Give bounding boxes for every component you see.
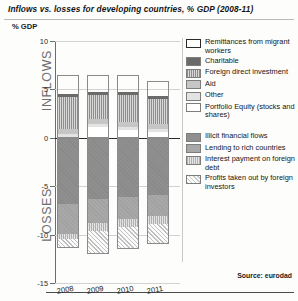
segment-aid-2010[interactable] <box>117 122 139 127</box>
segment-lending-2011[interactable] <box>147 195 169 216</box>
legend-label-profits: Profits taken out by foreign investors <box>205 174 296 191</box>
legend-divider <box>182 38 183 262</box>
legend-swatch-remittances <box>186 39 201 48</box>
y-tick-10 <box>50 41 55 42</box>
y-axis-tick-labels: 1050-5-10-15 <box>22 41 48 283</box>
y-tick-label--10: -10 <box>37 230 48 239</box>
segment-profits-2008[interactable] <box>57 239 79 248</box>
bar-group-2009[interactable] <box>87 41 109 283</box>
y-tick-label-0: 0 <box>44 133 48 142</box>
legend-swatch-charitable <box>186 57 201 66</box>
segment-interest-2011[interactable] <box>147 216 169 224</box>
legend-item-lending[interactable]: Lending to rich countries <box>186 144 296 154</box>
legend-swatch-profits <box>186 175 201 184</box>
legend-label-lending: Lending to rich countries <box>205 144 286 153</box>
legend-label-illicit: Illicit financial flows <box>205 132 267 141</box>
bar-group-2010[interactable] <box>117 41 139 283</box>
segment-portfolio-2010[interactable] <box>117 130 139 138</box>
segment-aid-2011[interactable] <box>147 124 169 129</box>
segment-profits-2011[interactable] <box>147 224 169 244</box>
source-note: Source: eurodad <box>237 272 292 279</box>
legend-item-remittances[interactable]: Remittances from migrant workers <box>186 38 296 55</box>
segment-fdi-2009[interactable] <box>87 95 109 119</box>
segment-aid-2009[interactable] <box>87 119 109 124</box>
segment-other-2011[interactable] <box>147 129 169 132</box>
segment-interest-2009[interactable] <box>87 223 109 231</box>
segment-remittances-2010[interactable] <box>117 75 139 92</box>
y-tick--5 <box>50 186 55 187</box>
legend-swatch-portfolio <box>186 103 201 112</box>
legend-label-fdi: Foreign direct investment <box>205 68 288 77</box>
legend-swatch-lending <box>186 144 201 153</box>
legend-swatch-other <box>186 92 201 101</box>
y-tick--10 <box>50 235 55 236</box>
legend-label-portfolio: Portfolio Equity (stocks and shares) <box>205 103 296 120</box>
legend-item-aid[interactable]: Aid <box>186 80 296 90</box>
segment-charitable-2010[interactable] <box>117 92 139 95</box>
chart-legend: Remittances from migrant workersCharitab… <box>186 38 296 193</box>
legend-item-portfolio[interactable]: Portfolio Equity (stocks and shares) <box>186 103 296 120</box>
x-axis-line <box>46 292 294 293</box>
segment-illicit-2009[interactable] <box>87 138 109 199</box>
legend-swatch-interest <box>186 156 201 165</box>
legend-label-other: Other <box>205 91 223 100</box>
segment-profits-2010[interactable] <box>117 227 139 249</box>
segment-lending-2010[interactable] <box>117 197 139 219</box>
y-tick-label-5: 5 <box>44 85 48 94</box>
segment-fdi-2010[interactable] <box>117 95 139 122</box>
chart-title: Inflows vs. losses for developing countr… <box>8 4 290 14</box>
legend-item-illicit[interactable]: Illicit financial flows <box>186 132 296 142</box>
segment-profits-2009[interactable] <box>87 231 109 254</box>
segment-illicit-2008[interactable] <box>57 138 79 204</box>
y-axis-label: % GDP <box>12 22 37 31</box>
chart-figure: Inflows vs. losses for developing countr… <box>0 0 298 301</box>
x-tick-label-2008: 2008 <box>56 284 74 296</box>
legend-label-remittances: Remittances from migrant workers <box>205 38 296 55</box>
segment-remittances-2011[interactable] <box>147 81 169 96</box>
segment-lending-2009[interactable] <box>87 199 109 223</box>
legend-swatch-aid <box>186 80 201 89</box>
y-tick-5 <box>50 89 55 90</box>
segment-remittances-2009[interactable] <box>87 75 109 92</box>
legend-item-interest[interactable]: Interest payment on foreign debt <box>186 155 296 172</box>
segment-other-2009[interactable] <box>87 124 109 127</box>
legend-item-profits[interactable]: Profits taken out by foreign investors <box>186 174 296 191</box>
y-tick--15 <box>50 283 55 284</box>
legend-swatch-fdi <box>186 69 201 78</box>
bar-group-2008[interactable] <box>57 41 79 283</box>
segment-charitable-2011[interactable] <box>147 96 169 99</box>
segment-interest-2010[interactable] <box>117 219 139 227</box>
segment-remittances-2008[interactable] <box>57 75 79 94</box>
segment-fdi-2011[interactable] <box>147 99 169 124</box>
x-tick-label-2011: 2011 <box>146 284 164 296</box>
segment-charitable-2009[interactable] <box>87 92 109 95</box>
segment-portfolio-2009[interactable] <box>87 127 109 138</box>
segment-illicit-2011[interactable] <box>147 138 169 195</box>
segment-lending-2008[interactable] <box>57 204 79 234</box>
segment-aid-2008[interactable] <box>57 129 79 134</box>
legend-item-charitable[interactable]: Charitable <box>186 57 296 67</box>
segment-charitable-2008[interactable] <box>57 94 79 97</box>
y-tick-label--5: -5 <box>41 182 48 191</box>
legend-swatch-illicit <box>186 133 201 142</box>
legend-label-aid: Aid <box>205 80 216 89</box>
bar-group-2011[interactable] <box>147 41 169 283</box>
segment-fdi-2008[interactable] <box>57 97 79 129</box>
y-tick-label--15: -15 <box>37 279 48 288</box>
segment-other-2010[interactable] <box>117 127 139 130</box>
y-tick-label-10: 10 <box>40 37 48 46</box>
legend-label-interest: Interest payment on foreign debt <box>205 155 296 172</box>
title-divider <box>4 19 294 20</box>
x-tick-label-2009: 2009 <box>86 284 104 296</box>
gridline-0 <box>55 138 180 139</box>
plot-area <box>55 41 180 283</box>
legend-item-fdi[interactable]: Foreign direct investment <box>186 68 296 78</box>
x-tick-label-2010: 2010 <box>116 284 134 296</box>
legend-item-other[interactable]: Other <box>186 91 296 101</box>
segment-other-2008[interactable] <box>57 134 79 137</box>
segment-illicit-2010[interactable] <box>117 138 139 197</box>
legend-label-charitable: Charitable <box>205 57 239 66</box>
